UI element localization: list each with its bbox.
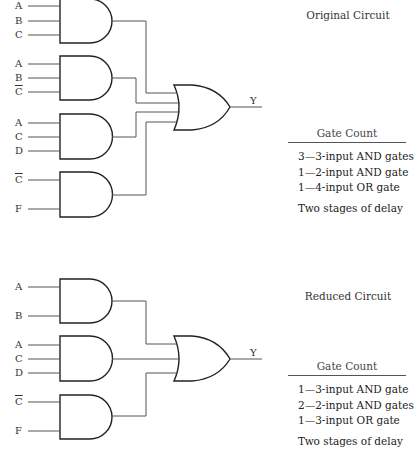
output-label-y: Y <box>250 348 257 358</box>
input-label: B <box>15 16 22 26</box>
gate-count-heading: Gate Count <box>288 360 406 376</box>
input-label: F <box>15 426 22 436</box>
input-label: D <box>15 146 23 156</box>
gate-count-row: 1—3-input OR gate <box>288 413 406 429</box>
input-label: A <box>15 1 22 11</box>
gate-count-row: 1—4-input OR gate <box>288 180 406 196</box>
original-circuit-title: Original Circuit <box>278 9 418 21</box>
original-and-gate-2 <box>60 56 112 100</box>
input-label: A <box>15 340 22 350</box>
reduced-gate-count-panel: Gate Count 1—3-input AND gate 2—2-input … <box>288 360 406 447</box>
gate-count-row: 3—3-input AND gates <box>288 149 406 165</box>
gate-count-row: 1—3-input AND gate <box>288 382 406 398</box>
original-and-gate-1 <box>60 0 112 43</box>
input-label: D <box>15 368 23 378</box>
output-label-y: Y <box>250 96 257 106</box>
original-and-gate-4 <box>60 172 113 217</box>
wires <box>28 6 262 431</box>
delay-note: Two stages of delay <box>288 435 406 447</box>
input-label: A <box>15 282 22 292</box>
input-label: F <box>15 204 22 214</box>
input-label: C <box>15 354 23 364</box>
reduced-circuit-title: Reduced Circuit <box>278 290 418 302</box>
input-label: B <box>15 73 22 83</box>
input-label-complemented: C <box>15 175 23 185</box>
input-label: C <box>15 30 23 40</box>
original-or-gate <box>174 85 230 130</box>
original-gate-count-panel: Gate Count 3—3-input AND gates 1—2-input… <box>288 127 406 214</box>
input-label: A <box>15 59 22 69</box>
gate-count-row: 1—2-input AND gate <box>288 165 406 181</box>
reduced-and-gate-3 <box>60 395 112 439</box>
reduced-or-gate <box>174 336 230 381</box>
reduced-and-gate-1 <box>60 279 112 323</box>
original-and-gate-3 <box>60 114 113 159</box>
delay-note: Two stages of delay <box>288 202 406 214</box>
input-label: B <box>15 311 22 321</box>
input-label: C <box>15 132 23 142</box>
gate-count-row: 2—2-input AND gates <box>288 398 406 414</box>
reduced-and-gate-2 <box>60 336 113 381</box>
input-label: A <box>15 118 22 128</box>
input-label-complemented: C <box>15 87 23 97</box>
input-label-complemented: C <box>15 397 23 407</box>
gate-count-heading: Gate Count <box>288 127 406 143</box>
